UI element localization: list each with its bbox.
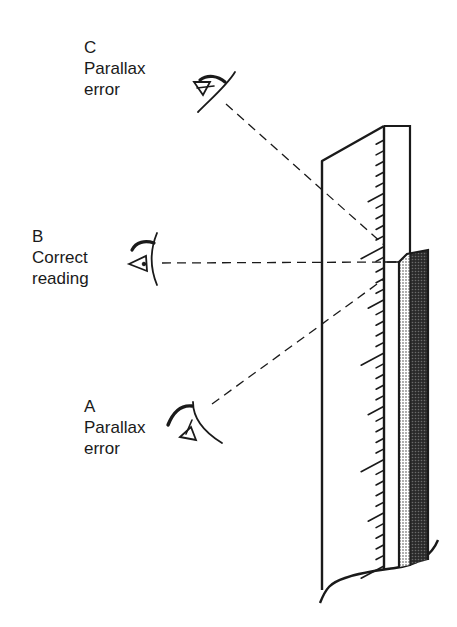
eye-level-icon xyxy=(129,233,157,285)
scale-ticks xyxy=(361,140,384,578)
tube xyxy=(384,126,410,254)
scale-tick xyxy=(368,193,384,201)
label-b-line2: reading xyxy=(32,268,89,289)
scale-tick xyxy=(361,460,384,472)
diagram-drawing xyxy=(0,0,457,627)
eye-looking-up-icon xyxy=(168,402,222,443)
label-b-correct-reading: B Correct reading xyxy=(32,226,89,289)
label-a-parallax-error: A Parallax error xyxy=(84,396,145,459)
label-c-parallax-error: C Parallax error xyxy=(84,37,145,100)
label-a-line1: Parallax xyxy=(84,417,145,438)
scale-tick xyxy=(368,300,384,308)
scale-tick xyxy=(368,513,384,521)
label-c-line2: error xyxy=(84,79,145,100)
scale-tick xyxy=(361,247,384,259)
scale-tick xyxy=(368,406,384,414)
tube-top-outline xyxy=(384,126,410,254)
label-c-line1: Parallax xyxy=(84,58,145,79)
sight-line-c xyxy=(226,104,384,245)
liquid-light-band xyxy=(399,255,410,567)
label-a-line2: error xyxy=(84,438,145,459)
label-b-letter: B xyxy=(32,226,89,247)
sight-lines xyxy=(162,104,398,404)
scale-tick xyxy=(361,353,384,365)
sight-line-a xyxy=(212,279,384,404)
label-b-line1: Correct xyxy=(32,247,89,268)
label-a-letter: A xyxy=(84,396,145,417)
liquid-dark-band xyxy=(410,250,428,565)
label-c-letter: C xyxy=(84,37,145,58)
liquid-column xyxy=(384,250,428,568)
parallax-diagram: C Parallax error B Correct reading A Par… xyxy=(0,0,457,627)
sight-line-b xyxy=(162,262,398,263)
